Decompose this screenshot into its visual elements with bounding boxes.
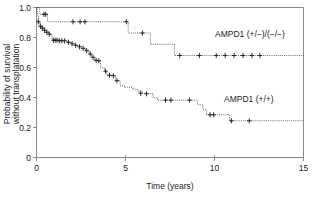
survival-plot-svg: 051015 00.20.40.60.81.0 Time (years) Pro… (0, 0, 321, 207)
y-tick-label: 1.0 (19, 3, 31, 13)
y-tick-label: 0.8 (19, 33, 31, 43)
series-label-ampd1-wildtype: AMPD1 (+/+) (224, 94, 274, 104)
series-label-ampd1-het-hom: AMPD1 (+/−)/(−/−) (215, 29, 285, 39)
x-tick-label: 5 (123, 163, 128, 173)
x-tick-label: 10 (210, 163, 220, 173)
x-tick-label: 15 (299, 163, 309, 173)
kaplan-meier-figure: 051015 00.20.40.60.81.0 Time (years) Pro… (0, 0, 321, 207)
x-axis-title: Time (years) (146, 181, 194, 191)
y-tick-label: 0 (26, 153, 31, 163)
y-axis-title-line2: without transplatation (11, 44, 21, 126)
x-tick-label: 0 (34, 163, 39, 173)
